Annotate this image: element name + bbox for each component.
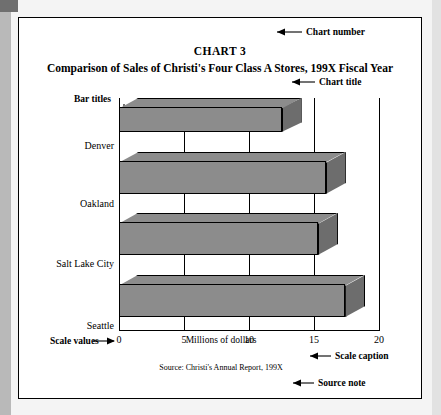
bar-oakland [119, 161, 326, 194]
category-label-denver: Denver [24, 140, 114, 151]
x-axis-caption: Millions of dollars [19, 335, 423, 345]
plot-frame [119, 98, 379, 330]
bar-seattle [119, 284, 345, 317]
plot-area: Denver Oakland Salt Lake City Seattle 0 … [119, 98, 379, 330]
x-axis [119, 330, 380, 331]
bar-denver [119, 107, 282, 132]
category-label-oakland: Oakland [24, 198, 114, 209]
scan-corner-mark [0, 0, 18, 12]
annotation-chart-number: Chart number [306, 27, 365, 37]
source-note: Source: Christi's Annual Report, 199X [19, 363, 423, 372]
figure-container: CHART 3 Comparison of Sales of Christi's… [18, 17, 422, 399]
scan-right-margin [432, 0, 441, 415]
bar-salt-lake-city [119, 222, 318, 255]
chart-title: Comparison of Sales of Christi's Four Cl… [19, 62, 421, 74]
annotation-source-note: Source note [318, 378, 366, 388]
annotation-scale-caption: Scale caption [335, 351, 389, 361]
category-label-salt-lake-city: Salt Lake City [24, 258, 114, 269]
chart-number: CHART 3 [19, 45, 421, 57]
gridline-20 [379, 98, 380, 330]
scan-left-margin [0, 12, 11, 415]
category-label-seattle: Seattle [24, 320, 114, 331]
annotation-bar-titles: Bar titles [74, 94, 111, 104]
annotation-chart-title: Chart title [319, 77, 361, 87]
